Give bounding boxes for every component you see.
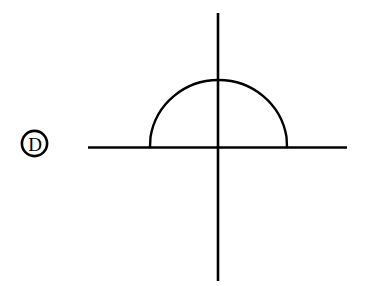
coordinate-axes [88,13,347,281]
option-label-d: D [22,131,47,156]
figure-container: D [0,0,367,286]
graph-figure: D [0,0,367,286]
option-label-letter: D [28,134,42,155]
